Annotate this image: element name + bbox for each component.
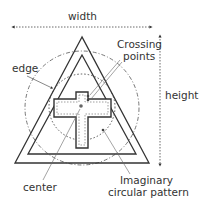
imaginary-pattern-label-line2: circular pattern bbox=[108, 186, 189, 198]
center-leader bbox=[43, 109, 80, 180]
center-label: center bbox=[23, 181, 57, 193]
edge-leader bbox=[27, 76, 52, 88]
triangle-cross-diagram: width height edge Crossing points center… bbox=[0, 0, 201, 207]
imaginary-pattern-label-line1: Imaginary bbox=[120, 174, 173, 186]
imaginary-pattern-leader bbox=[104, 131, 130, 174]
height-label: height bbox=[165, 89, 198, 101]
crossing-point bbox=[87, 95, 90, 98]
center-point bbox=[79, 104, 83, 108]
width-label: width bbox=[68, 10, 97, 22]
crossing-point bbox=[87, 99, 90, 102]
crossing-points-label-line2: points bbox=[123, 50, 155, 62]
edge-label: edge bbox=[12, 62, 38, 74]
pattern-point bbox=[102, 129, 105, 132]
crossing-points-label-line1: Crossing bbox=[117, 38, 162, 50]
cross-shape bbox=[54, 92, 111, 148]
